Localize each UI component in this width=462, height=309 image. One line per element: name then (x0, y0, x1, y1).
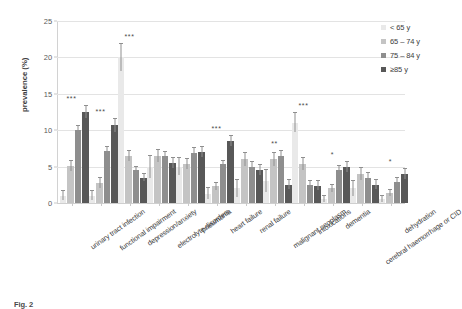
error-bar-cap-top (322, 195, 326, 196)
bar-slot (292, 21, 299, 203)
error-bar (157, 150, 158, 162)
bar-1[interactable] (67, 166, 74, 203)
y-axis-tick-label: 10 (44, 126, 52, 135)
error-bar-cap-top (330, 184, 334, 185)
error-bar (237, 180, 238, 197)
bar-1[interactable] (241, 159, 248, 203)
error-bar-cap-top (61, 190, 65, 191)
bar-2[interactable] (191, 153, 198, 203)
y-axis-tick-label: 15 (44, 89, 52, 98)
bar-group (173, 21, 202, 203)
bar-2[interactable] (249, 167, 256, 203)
bar-1[interactable] (299, 164, 306, 203)
bar-slot (205, 21, 212, 203)
legend-item[interactable]: 75 – 84 y (381, 48, 459, 62)
bar-group: *** (115, 21, 144, 203)
bar-1[interactable] (154, 156, 161, 203)
error-bar-cap-top (192, 147, 196, 148)
error-bar (331, 185, 332, 192)
bar-group: *** (289, 21, 318, 203)
error-bar (281, 151, 282, 161)
legend-swatch-icon (381, 39, 386, 44)
error-bar (266, 170, 267, 192)
error-bar-cap-top (221, 160, 225, 161)
x-axis-tick-mark (304, 203, 305, 206)
error-bar-cap-top (163, 151, 167, 152)
bar-group: ** (260, 21, 289, 203)
legend-swatch-icon (381, 53, 386, 58)
error-bar-cap-top (380, 195, 384, 196)
plot-area: 0510152025******************* (57, 21, 405, 203)
error-bar (223, 161, 224, 168)
error-bar-cap-top (395, 177, 399, 178)
error-bar-cap-top (76, 125, 80, 126)
error-bar (136, 167, 137, 174)
bar-0[interactable] (292, 123, 299, 203)
error-bar-cap-top (206, 187, 210, 188)
bar-1[interactable] (183, 164, 190, 203)
bar-slot (278, 21, 285, 203)
bar-slot (241, 21, 248, 203)
error-bar (397, 178, 398, 185)
bar-slot (176, 21, 183, 203)
significance-marker: * (331, 151, 334, 158)
bar-slot (365, 21, 372, 203)
bar-1[interactable] (125, 156, 132, 203)
legend-item[interactable]: < 65 y (381, 20, 459, 34)
bar-1[interactable] (270, 159, 277, 203)
bar-2[interactable] (75, 130, 82, 203)
bar-0[interactable] (118, 57, 125, 203)
bar-2[interactable] (104, 151, 111, 203)
legend-swatch-icon (381, 25, 386, 30)
bar-slot (154, 21, 161, 203)
error-bar-cap-top (98, 177, 102, 178)
error-bar (310, 181, 311, 188)
gridline (57, 203, 405, 204)
error-bar-cap-top (90, 190, 94, 191)
error-bar (360, 168, 361, 180)
bar-2[interactable] (336, 170, 343, 203)
error-bar (70, 161, 71, 171)
significance-marker: *** (96, 108, 106, 115)
error-bar-cap-top (264, 169, 268, 170)
bar-2[interactable] (220, 164, 227, 203)
error-bar-cap-top (69, 160, 73, 161)
error-bar (353, 181, 354, 196)
error-bar (194, 148, 195, 157)
error-bar-cap-top (359, 167, 363, 168)
bar-group: *** (202, 21, 231, 203)
bar-slot (212, 21, 219, 203)
bar-slot (299, 21, 306, 203)
bar-group: *** (86, 21, 115, 203)
error-bar-cap-top (177, 157, 181, 158)
x-axis-tick-mark (159, 203, 160, 206)
error-bar-cap-top (185, 158, 189, 159)
legend-item[interactable]: ≥85 y (381, 62, 459, 76)
bar-slot (357, 21, 364, 203)
bar-slot (350, 21, 357, 203)
error-bar (295, 113, 296, 132)
bar-group (144, 21, 173, 203)
error-bar-cap-top (127, 150, 131, 151)
error-bar (389, 190, 390, 196)
figure-caption: Fig. 2 (14, 300, 454, 309)
bar-2[interactable] (133, 170, 140, 203)
significance-marker: ** (271, 140, 278, 147)
bar-slot (191, 21, 198, 203)
error-bar (339, 166, 340, 175)
x-axis-tick-mark (246, 203, 247, 206)
significance-marker: * (389, 158, 392, 165)
error-bar-cap-top (243, 152, 247, 153)
bar-2[interactable] (278, 156, 285, 203)
error-bar-cap-top (250, 161, 254, 162)
bar-slot (133, 21, 140, 203)
bar-slot (307, 21, 314, 203)
x-axis-tick-mark (333, 203, 334, 206)
legend-label: < 65 y (390, 23, 410, 32)
legend-item[interactable]: 65 – 74 y (381, 34, 459, 48)
bar-slot (118, 21, 125, 203)
error-bar-cap-top (272, 152, 276, 153)
bar-slot (183, 21, 190, 203)
error-bar (404, 169, 405, 179)
bar-2[interactable] (162, 156, 169, 203)
